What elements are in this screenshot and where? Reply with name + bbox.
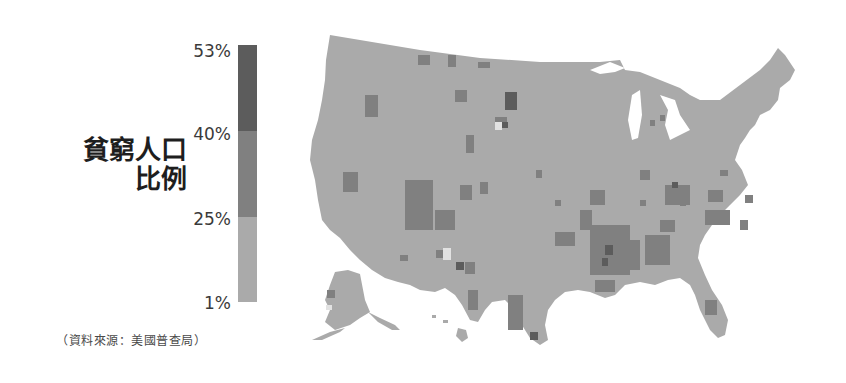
- hawaii-outline: [456, 328, 468, 342]
- legend-tick-40: 40%: [193, 126, 231, 143]
- legend-band-1-25: [238, 217, 257, 302]
- title-line-2: 比例: [50, 165, 187, 194]
- map-title: 貧窮人口 比例: [50, 136, 187, 194]
- alaska-tail: [368, 312, 400, 330]
- source-note: （資料來源：美國普查局）: [56, 331, 206, 348]
- legend-tick-25: 25%: [193, 211, 231, 228]
- hawaii-islands: [432, 315, 436, 318]
- alaska-outline: [325, 270, 370, 330]
- legend-tick-max: 53%: [193, 43, 231, 60]
- aleutian-islands: [312, 328, 345, 340]
- legend-band-25-40: [238, 131, 257, 217]
- legend-tick-min: 1%: [204, 295, 231, 312]
- hawaii-islands: [443, 320, 448, 323]
- legend-band-40-53: [238, 45, 257, 131]
- legend-color-bar: [238, 45, 257, 302]
- title-line-1: 貧窮人口: [50, 136, 187, 165]
